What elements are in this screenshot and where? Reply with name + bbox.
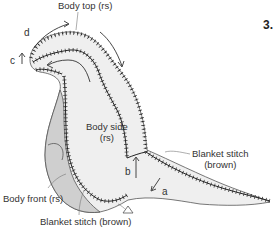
marker-a: a (162, 186, 168, 197)
leader-blanket-right (165, 151, 190, 154)
label-blanket-right-line2: (brown) (192, 159, 249, 170)
label-body-top: Body top (rs) (58, 0, 112, 11)
step-number: 3. (263, 18, 273, 32)
label-blanket-stitch-bottom: Blanket stitch (brown) (40, 216, 131, 227)
marker-c: c (10, 55, 15, 66)
label-blanket-stitch-right: Blanket stitch (brown) (192, 148, 249, 170)
label-blanket-right-line1: Blanket stitch (192, 148, 249, 159)
marker-d: d (24, 27, 30, 38)
leader-body-top (76, 12, 78, 30)
label-body-side-line1: Body side (86, 121, 128, 132)
label-body-side: Body side (rs) (86, 121, 128, 143)
label-body-front: Body front (rs) (3, 193, 63, 204)
triangle-marker-icon (123, 206, 133, 213)
marker-b: b (125, 166, 131, 177)
label-body-side-line2: (rs) (86, 132, 128, 143)
